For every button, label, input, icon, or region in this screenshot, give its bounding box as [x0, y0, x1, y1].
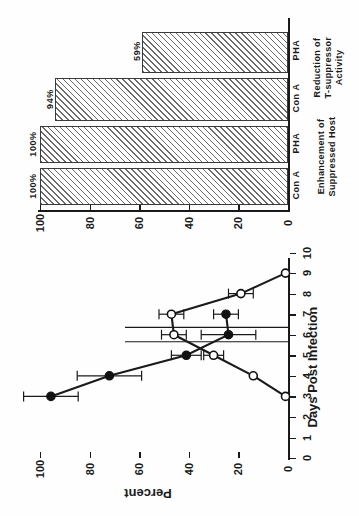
- bar-group-label-reduction-line3: Activity: [334, 28, 345, 108]
- bar-axis-tick-label: 40: [183, 208, 195, 238]
- bar-category-axis: [288, 18, 290, 210]
- bar-group-label-enhancement-line2: Suppressed Host: [327, 114, 338, 200]
- bar-axis-tick-label: 80: [84, 208, 96, 238]
- line-chart-panel: 0 1 2 3 4 5 6 7 8 9 10 100 80 60 40 20 0…: [0, 250, 359, 516]
- bar-value-label: 59%: [132, 34, 142, 68]
- bar-group-label-reduction-line2: T-suppressor: [323, 28, 334, 108]
- bar-category-label-con-a-1: Con A: [291, 168, 301, 202]
- bar-category-label-con-a-2: Con A: [291, 81, 301, 115]
- series-filled-line: [51, 314, 229, 396]
- bar-axis-tick-label: 100: [34, 208, 46, 238]
- bar-pha-reduction: [142, 32, 288, 73]
- bar-axis-tick-label: 60: [133, 208, 145, 238]
- bar-group-label-enhancement-line1: Enhancement of: [316, 114, 327, 200]
- bar-value-label: 100%: [28, 127, 38, 161]
- bar-axis-tick-label: 20: [232, 208, 244, 238]
- bar-value-label: 94%: [45, 82, 55, 116]
- bar-group-label-reduction-line1: Reduction of: [312, 28, 323, 108]
- bar-pha-enhancement: [40, 126, 288, 163]
- line-chart-data: [0, 250, 359, 516]
- bar-category-label-pha-2: PHA: [291, 33, 301, 67]
- bar-value-label: 100%: [28, 169, 38, 203]
- bar-category-label-pha-1: PHA: [291, 126, 301, 160]
- bar-axis-tick-label: 0: [282, 208, 294, 238]
- bar-con-a-reduction: [55, 78, 288, 121]
- bar-value-axis: [38, 210, 290, 212]
- figure-page: 100 80 60 40 20 0 100% 100% 94% 59% Con …: [0, 0, 359, 516]
- bar-con-a-enhancement: [40, 168, 288, 205]
- bar-chart-panel: 100 80 60 40 20 0 100% 100% 94% 59% Con …: [0, 0, 359, 250]
